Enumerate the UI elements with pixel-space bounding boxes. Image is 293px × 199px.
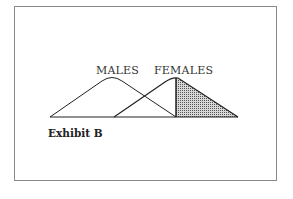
distribution-diagram bbox=[0, 0, 293, 199]
exhibit-caption: Exhibit B bbox=[48, 127, 103, 139]
males-curve bbox=[50, 78, 176, 118]
males-label: MALES bbox=[96, 64, 139, 77]
females-label: FEMALES bbox=[154, 64, 213, 77]
